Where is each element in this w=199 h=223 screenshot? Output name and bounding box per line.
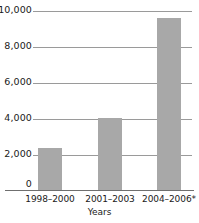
- ytick-label-2000: 2,000: [4, 148, 32, 159]
- xtick-label-2004-2006: 2004–2006*: [130, 194, 199, 204]
- bar-2001-2003: [98, 118, 122, 190]
- bar-2004-2006: [157, 18, 181, 190]
- ytick-label-10000: 10,000: [0, 4, 32, 15]
- ytick-label-8000: 8,000: [4, 40, 32, 51]
- ytick-label-6000: 6,000: [4, 76, 32, 87]
- bar-chart: 10,000 8,000 6,000 4,000 2,000 0 1998–20…: [0, 0, 199, 223]
- ytick-label-0: 0: [26, 178, 32, 189]
- bar-1998-2000: [38, 148, 62, 190]
- x-axis-line: [5, 190, 194, 191]
- gridline-10000: [33, 11, 192, 12]
- x-axis-title: Years: [0, 207, 199, 217]
- ytick-label-4000: 4,000: [4, 112, 32, 123]
